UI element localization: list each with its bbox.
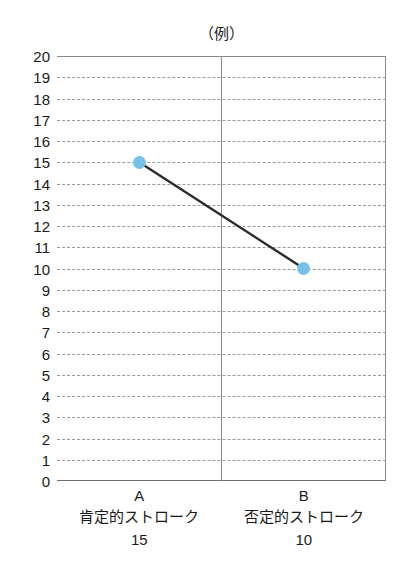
category-name: 否定的ストローク — [222, 505, 387, 528]
cropped-header-text: ——— —— — —— ———— ——— — —— — [0, 0, 412, 8]
category-label-block: A肯定的ストローク15 — [57, 486, 222, 552]
y-axis-tick-label: 2 — [2, 432, 50, 447]
y-axis-tick-label: 19 — [2, 70, 50, 85]
y-axis-tick-label: 4 — [2, 389, 50, 404]
category-value: 15 — [57, 528, 222, 552]
chart-figure: ——— —— — —— ———— ——— — —— （例） 2019181716… — [0, 0, 412, 577]
plot-area — [57, 56, 386, 481]
category-name: 肯定的ストローク — [57, 505, 222, 528]
series-line — [139, 162, 304, 268]
y-axis-tick-label: 7 — [2, 325, 50, 340]
y-axis-tick-label: 13 — [2, 198, 50, 213]
series-line-svg — [57, 56, 386, 481]
y-axis-tick-label: 9 — [2, 283, 50, 298]
category-letter: B — [222, 486, 387, 505]
y-axis-tick-label: 0 — [2, 474, 50, 489]
y-axis-tick-label: 11 — [2, 240, 50, 255]
y-axis-tick-label: 18 — [2, 92, 50, 107]
y-axis-tick-label: 5 — [2, 368, 50, 383]
y-axis-tick-label: 8 — [2, 304, 50, 319]
y-axis-tick-label: 3 — [2, 410, 50, 425]
y-axis-tick-label: 17 — [2, 113, 50, 128]
data-point-marker[interactable] — [133, 156, 146, 169]
y-axis-tick-label: 12 — [2, 219, 50, 234]
y-axis-tick-label: 20 — [2, 49, 50, 64]
y-axis-tick-label: 14 — [2, 177, 50, 192]
category-value: 10 — [222, 528, 387, 552]
y-axis-tick-label: 10 — [2, 262, 50, 277]
y-axis-tick-label: 6 — [2, 347, 50, 362]
data-layer — [57, 56, 386, 481]
category-letter: A — [57, 486, 222, 505]
category-label-block: B否定的ストローク10 — [222, 486, 387, 552]
y-axis-tick-label: 1 — [2, 453, 50, 468]
y-axis-tick-label: 16 — [2, 134, 50, 149]
chart-title: （例） — [57, 24, 386, 44]
cropped-header-text-label: ——— —— — —— ———— ——— — —— — [14, 0, 278, 5]
y-axis-tick-label: 15 — [2, 155, 50, 170]
